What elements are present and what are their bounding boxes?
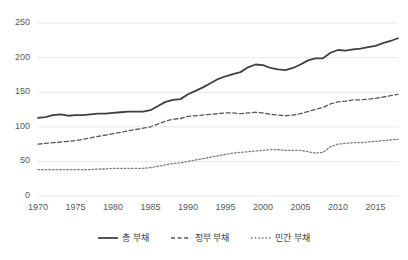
x-tick-1990: 1990 <box>168 202 208 212</box>
y-tick-150: 150 <box>4 86 30 96</box>
x-tick-1970: 1970 <box>18 202 58 212</box>
legend-swatch-icon-1 <box>171 234 191 242</box>
legend-label-1: 정부 부채 <box>195 231 230 244</box>
x-tick-2000: 2000 <box>243 202 283 212</box>
chart-legend: 총 부채정부 부채민간 부채 <box>0 231 408 244</box>
series-line-0 <box>38 38 398 118</box>
y-tick-100: 100 <box>4 121 30 131</box>
legend-swatch-icon-0 <box>98 234 118 242</box>
x-tick-1985: 1985 <box>131 202 171 212</box>
legend-item-1[interactable]: 정부 부채 <box>171 231 230 244</box>
y-tick-200: 200 <box>4 52 30 62</box>
x-tick-2010: 2010 <box>318 202 358 212</box>
plot-area <box>0 0 408 260</box>
series-line-1 <box>38 94 398 144</box>
x-tick-1980: 1980 <box>93 202 133 212</box>
line-chart: 050100150200250 197019751980198519901995… <box>0 0 408 260</box>
legend-item-0[interactable]: 총 부채 <box>98 231 149 244</box>
legend-label-0: 총 부채 <box>122 231 149 244</box>
x-tick-2005: 2005 <box>281 202 321 212</box>
x-tick-1975: 1975 <box>56 202 96 212</box>
y-tick-0: 0 <box>4 190 30 200</box>
y-tick-50: 50 <box>4 155 30 165</box>
legend-swatch-icon-2 <box>251 234 271 242</box>
x-tick-1995: 1995 <box>206 202 246 212</box>
x-tick-2015: 2015 <box>356 202 396 212</box>
y-tick-250: 250 <box>4 17 30 27</box>
series-line-2 <box>38 139 398 169</box>
legend-label-2: 민간 부채 <box>275 231 310 244</box>
legend-item-2[interactable]: 민간 부채 <box>251 231 310 244</box>
